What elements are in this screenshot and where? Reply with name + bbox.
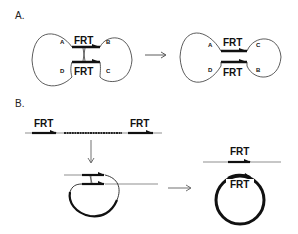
frt-label-product-linear: FRT: [230, 146, 249, 157]
frt-label-a-before-top: FRT: [74, 35, 93, 46]
panel-b-linear-substrate: [25, 130, 162, 133]
frt-label-a-before-bottom: FRT: [74, 66, 93, 77]
panel-b-products: [203, 159, 281, 224]
segment-label-c: C: [106, 68, 111, 74]
segment-label-d-after: D: [208, 67, 213, 73]
frt-label-b-right: FRT: [130, 118, 149, 129]
reaction-arrow-a: [145, 52, 166, 58]
frt-label-a-after-top: FRT: [223, 37, 242, 48]
segment-label-a: A: [60, 39, 65, 45]
panel-b-intermediate: [64, 172, 158, 216]
frt-label-a-after-bottom: FRT: [223, 67, 242, 78]
segment-label-c-after: C: [256, 42, 261, 48]
segment-label-b-after: B: [256, 67, 261, 73]
segment-label-b: B: [106, 39, 111, 45]
segment-label-a-after: A: [208, 42, 213, 48]
segment-label-d: D: [60, 68, 65, 74]
frt-label-b-left: FRT: [34, 118, 53, 129]
recombination-diagram: FRT FRT A B D C FRT FRT A C D B FRT FRT: [0, 0, 298, 234]
frt-label-product-circle: FRT: [230, 179, 249, 190]
reaction-arrow-b-down: [88, 140, 94, 163]
reaction-arrow-b-right: [168, 185, 191, 191]
